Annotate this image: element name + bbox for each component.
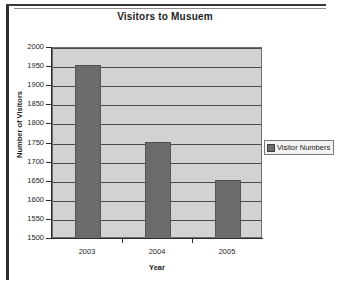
chart-legend: Visitor Numbers (264, 140, 334, 155)
y-axis-line (51, 47, 52, 239)
x-axis-tick-label: 2005 (207, 247, 247, 256)
y-axis-tick (46, 104, 51, 105)
x-axis-tick (122, 239, 123, 243)
chart-figure: Visitors to Musuem 200019501900185018001… (0, 0, 341, 285)
y-axis-tick-label: 1550 (16, 215, 44, 223)
bar-series (53, 48, 261, 237)
y-axis-tick (46, 143, 51, 144)
y-axis-tick-label: 1500 (16, 234, 44, 242)
y-axis-tick (46, 181, 51, 182)
x-axis-line (51, 238, 263, 239)
legend-swatch-icon (267, 144, 275, 152)
bar (145, 142, 171, 238)
y-axis-tick (46, 200, 51, 201)
page-frame-top-inner-rule (14, 8, 326, 9)
y-axis-tick (46, 238, 51, 239)
y-axis-tick-label: 2000 (16, 43, 44, 51)
y-axis-tick (46, 162, 51, 163)
bar (215, 180, 241, 237)
plot-area (52, 47, 262, 238)
legend-entry-label: Visitor Numbers (277, 143, 330, 152)
y-axis-title: Number of Visitors (15, 70, 24, 180)
y-axis-tick (46, 47, 51, 48)
x-axis-tick-label: 2004 (137, 247, 177, 256)
x-axis-title: Year (52, 263, 262, 272)
y-axis-tick (46, 85, 51, 86)
page-frame-top-edge (6, 4, 326, 6)
y-axis-tick (46, 66, 51, 67)
x-axis-tick-label: 2003 (67, 247, 107, 256)
y-axis-tick (46, 123, 51, 124)
y-axis-tick (46, 219, 51, 220)
page-frame-left-edge (6, 4, 9, 280)
y-axis-tick-label: 1600 (16, 196, 44, 204)
chart-title: Visitors to Musuem (20, 11, 310, 22)
x-axis-tick (192, 239, 193, 243)
bar (75, 65, 101, 237)
